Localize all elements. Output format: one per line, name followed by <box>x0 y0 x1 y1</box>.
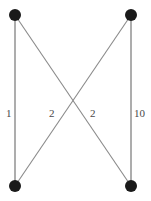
graph-canvas <box>0 0 151 201</box>
edge-group <box>15 15 131 186</box>
edge-weight-label-diagonal-left: 2 <box>49 108 55 119</box>
node-bottom-left[interactable] <box>9 180 21 192</box>
node-top-left[interactable] <box>9 9 21 21</box>
edge-weight-label-right: 10 <box>134 108 145 119</box>
edge-weight-label-left: 1 <box>6 108 12 119</box>
node-bottom-right[interactable] <box>125 180 137 192</box>
node-top-right[interactable] <box>125 9 137 21</box>
edge-weight-label-diagonal-right: 2 <box>90 108 96 119</box>
weighted-graph-figure: 1 2 2 10 <box>0 0 151 201</box>
